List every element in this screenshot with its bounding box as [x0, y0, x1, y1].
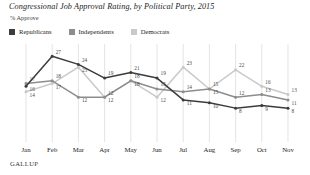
data-point — [77, 66, 80, 69]
data-point — [25, 90, 28, 93]
plot-area: 1716142718172423121912122118181915122314… — [0, 44, 310, 142]
point-value-label: 10 — [213, 103, 219, 109]
data-point — [25, 85, 28, 88]
legend-label: Republicans — [19, 28, 52, 35]
point-value-label: 13 — [265, 87, 271, 93]
x-tick-sep: Sep — [230, 146, 240, 153]
legend-item-independents: Independents — [69, 28, 114, 35]
square-swatch — [9, 29, 15, 35]
point-value-label: 18 — [134, 73, 140, 79]
point-value-label: 14 — [187, 84, 193, 90]
point-value-label: 15 — [161, 81, 167, 87]
point-value-label: 12 — [161, 97, 167, 103]
data-point — [103, 96, 106, 99]
point-value-label: 14 — [30, 92, 36, 98]
point-value-label: 12 — [108, 90, 114, 96]
point-value-label: 23 — [82, 67, 88, 73]
point-value-label: 16 — [265, 79, 271, 85]
x-tick-oct: Oct — [257, 146, 267, 153]
chart-container: Congressional Job Approval Rating, by Po… — [0, 0, 310, 175]
point-value-label: 19 — [108, 70, 114, 76]
legend-item-democrats: Democrats — [131, 28, 170, 35]
data-point — [156, 77, 159, 80]
data-point — [208, 88, 211, 91]
data-point — [182, 66, 185, 69]
point-value-label: 11 — [292, 100, 297, 106]
point-value-label: 11 — [187, 100, 192, 106]
data-point — [156, 96, 159, 99]
square-swatch — [131, 29, 137, 35]
data-point — [182, 98, 185, 101]
data-point — [51, 82, 54, 85]
chart-legend: RepublicansIndependentsDemocrats — [9, 28, 186, 35]
point-value-label: 12 — [108, 97, 114, 103]
x-tick-jul: Jul — [179, 146, 187, 153]
x-tick-apr: Apr — [99, 146, 110, 153]
point-value-label: 9 — [265, 106, 268, 112]
point-value-label: 17 — [56, 84, 62, 90]
data-point — [182, 90, 185, 93]
data-point — [103, 77, 106, 80]
data-point — [208, 101, 211, 104]
x-tick-mar: Mar — [73, 146, 84, 153]
point-value-label: 18 — [56, 73, 62, 79]
x-tick-jan: Jan — [21, 146, 30, 153]
data-point — [260, 85, 263, 88]
point-value-label: 12 — [82, 97, 88, 103]
x-tick-nov: Nov — [282, 146, 294, 153]
point-value-label: 8 — [239, 108, 242, 114]
data-point — [287, 107, 290, 110]
data-point — [77, 63, 80, 66]
chart-title: Congressional Job Approval Rating, by Po… — [9, 2, 215, 11]
data-point — [287, 93, 290, 96]
point-value-label: 15 — [213, 89, 219, 95]
x-tick-jun: Jun — [152, 146, 161, 153]
point-value-label: 15 — [213, 81, 219, 87]
x-tick-aug: Aug — [204, 146, 216, 153]
legend-label: Democrats — [141, 28, 170, 35]
data-point — [287, 98, 290, 101]
data-point — [234, 96, 237, 99]
data-point — [156, 88, 159, 91]
point-value-label: 27 — [56, 49, 62, 55]
point-value-label: 17 — [30, 76, 36, 82]
legend-label: Independents — [79, 28, 114, 35]
legend-item-republicans: Republicans — [9, 28, 52, 35]
data-point — [129, 79, 132, 82]
square-swatch — [69, 29, 75, 35]
point-value-label: 12 — [239, 90, 245, 96]
data-point — [77, 96, 80, 99]
data-point — [51, 55, 54, 58]
data-point — [260, 93, 263, 96]
data-point — [129, 71, 132, 74]
point-value-label: 8 — [292, 108, 295, 114]
x-tick-feb: Feb — [47, 146, 57, 153]
point-value-label: 23 — [187, 60, 193, 66]
data-point — [234, 68, 237, 71]
plot-svg: 1716142718172423121912122118181915122314… — [0, 44, 310, 142]
point-value-label: 24 — [82, 57, 88, 63]
point-value-label: 21 — [134, 65, 140, 71]
point-value-label: 19 — [161, 70, 167, 76]
source-footer: GALLUP — [10, 160, 38, 167]
x-tick-may: May — [125, 146, 137, 153]
data-point — [234, 107, 237, 110]
data-point — [260, 104, 263, 107]
point-value-label: 18 — [134, 81, 140, 87]
point-value-label: 22 — [239, 62, 245, 68]
point-value-label: 13 — [292, 87, 298, 93]
x-axis: JanFebMarAprMayJunJulAugSepOctNov — [0, 142, 310, 158]
chart-subtitle: % Approve — [10, 14, 39, 21]
data-point — [51, 79, 54, 82]
